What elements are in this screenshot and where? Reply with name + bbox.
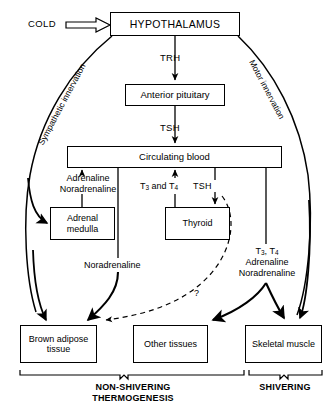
node-adrenal-medulla[interactable]: Adrenal medulla	[50, 207, 115, 240]
label-t3-and-t4: T3 and T4	[140, 181, 178, 192]
arrow-hormones-to-other-tissues	[213, 283, 266, 320]
node-hypothalamus[interactable]: HYPOTHALAMUS	[110, 12, 240, 36]
label-non-shivering-line1: NON-SHIVERING	[95, 382, 170, 392]
label-uncertain-question-mark: ?	[194, 288, 199, 299]
label-noradrenaline-middle: Noradrenaline	[84, 260, 141, 271]
label-right-t3t4: T3, T4	[255, 246, 278, 256]
node-skeletal-muscle[interactable]: Skeletal muscle	[245, 325, 322, 363]
label-non-shivering-thermogenesis: NON-SHIVERING THERMOGENESIS	[78, 382, 188, 404]
node-circulating-blood-label: Circulating blood	[139, 152, 210, 163]
node-brown-adipose-line2: tissue	[47, 344, 71, 354]
cold-block-arrow	[66, 18, 110, 32]
label-t4-sub: 4	[174, 184, 178, 191]
node-adrenal-medulla-label: Adrenal medulla	[67, 213, 99, 234]
label-right-adrenaline: Adrenaline	[245, 257, 288, 267]
label-non-shivering-line2: THERMOGENESIS	[92, 393, 174, 403]
node-circulating-blood[interactable]: Circulating blood	[67, 146, 282, 168]
node-adrenal-medulla-line2: medulla	[67, 224, 99, 234]
node-other-tissues[interactable]: Other tissues	[133, 325, 208, 363]
node-thyroid-label: Thyroid	[182, 218, 212, 228]
node-anterior-pituitary[interactable]: Anterior pituitary	[125, 84, 225, 106]
node-skeletal-muscle-label: Skeletal muscle	[252, 339, 315, 349]
node-anterior-pituitary-label: Anterior pituitary	[140, 90, 209, 101]
label-noradrenaline: Noradrenaline	[60, 184, 117, 194]
label-adrenaline: Adrenaline	[66, 173, 109, 183]
label-tsh-blood-to-thyroid: TSH	[193, 181, 212, 192]
node-brown-adipose-label: Brown adipose tissue	[29, 334, 89, 355]
arrow-noradrenaline-to-brown-adipose	[88, 272, 118, 320]
label-right-t4-sub: 4	[275, 249, 279, 256]
label-cold: COLD	[28, 18, 56, 29]
label-right-hormone-group: T3, T4 Adrenaline Noradrenaline	[222, 246, 312, 279]
node-brown-adipose-line1: Brown adipose	[29, 334, 89, 344]
label-right-noradrenaline: Noradrenaline	[239, 268, 296, 278]
brace-non-shivering	[20, 370, 244, 379]
label-trh: TRH	[160, 52, 180, 63]
node-other-tissues-label: Other tissues	[144, 339, 197, 349]
node-adrenal-medulla-line1: Adrenal	[67, 213, 98, 223]
arrow-hormones-to-skeletal-muscle	[266, 283, 284, 318]
label-right-sep: , T	[265, 246, 275, 256]
node-thyroid[interactable]: Thyroid	[165, 207, 230, 240]
label-adrenaline-noradrenaline: Adrenaline Noradrenaline	[40, 173, 136, 195]
label-t3-and-t4-mid: and T	[149, 181, 174, 191]
thermogenesis-diagram: HYPOTHALAMUS Anterior pituitary Circulat…	[0, 0, 335, 411]
brace-shivering	[249, 370, 322, 379]
node-hypothalamus-label: HYPOTHALAMUS	[130, 18, 221, 30]
node-brown-adipose-tissue[interactable]: Brown adipose tissue	[20, 325, 97, 363]
label-tsh-pituitary: TSH	[160, 122, 180, 133]
label-shivering: SHIVERING	[248, 382, 322, 393]
